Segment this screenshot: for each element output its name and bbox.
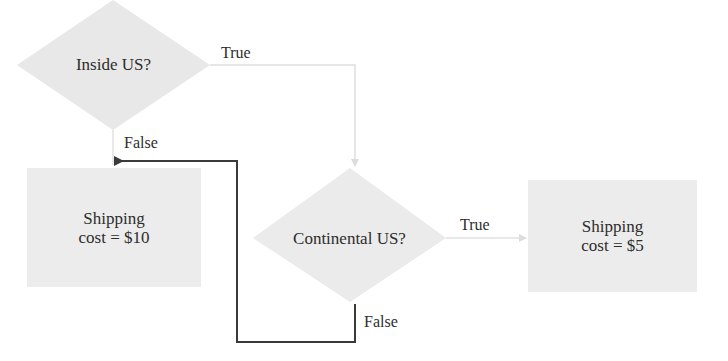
process-cost-5-box: Shipping cost = $5 [528,180,697,292]
process-cost-10-box: Shipping cost = $10 [27,168,201,287]
edge-label-continental-false: False [364,313,398,331]
decision-inside-us-label: Inside US? [17,55,210,74]
edge-label-inside-true: True [221,44,251,62]
edge-label-continental-true: True [460,216,490,234]
process-cost-5-line1: Shipping [582,217,643,236]
process-cost-10-line2: cost = $10 [79,228,150,247]
process-cost-5-line2: cost = $5 [581,236,643,255]
decision-continental-us-label: Continental US? [253,229,446,248]
flowchart-canvas: Inside US? Continental US? Shipping cost… [0,0,728,361]
process-cost-10-line1: Shipping [83,209,144,228]
edge-inside-true [210,65,355,165]
edge-label-inside-false: False [124,134,158,152]
